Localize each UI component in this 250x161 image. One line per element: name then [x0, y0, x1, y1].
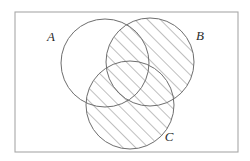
set-label-c: C — [165, 129, 174, 144]
venn-diagram-figure: A B C — [0, 0, 250, 161]
set-label-a: A — [46, 29, 55, 44]
set-label-b: B — [196, 28, 204, 43]
venn-diagram-canvas: A B C — [0, 0, 250, 161]
